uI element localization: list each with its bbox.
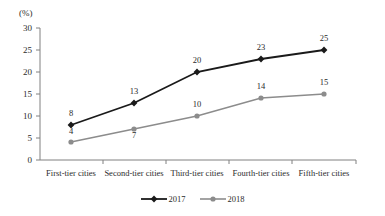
data-label-2018-3: 14 [249, 82, 273, 91]
data-label-2017-4: 25 [312, 34, 336, 43]
data-label-2017-2: 20 [185, 56, 209, 65]
data-label-2018-0: 4 [59, 127, 83, 136]
axis-lines [40, 28, 356, 160]
y-axis-ticks [36, 28, 40, 160]
legend-entry-2017[interactable]: 2017 [141, 194, 186, 204]
line-chart: (%) 30 25 20 15 10 5 0 [0, 0, 385, 216]
legend-label-2018: 2018 [228, 194, 245, 204]
x-axis-ticks [103, 160, 356, 164]
chart-legend: 2017 2018 [0, 194, 385, 204]
data-label-2017-3: 23 [249, 43, 273, 52]
legend-label-2017: 2017 [169, 194, 186, 204]
x-tick-label-fifth-tier-cities: Fifth-tier cities [282, 168, 366, 178]
data-label-2018-1: 7 [122, 131, 146, 140]
legend-marker-2018-icon [200, 194, 226, 204]
data-label-2017-1: 13 [122, 87, 146, 96]
data-label-2017-0: 8 [59, 109, 83, 118]
legend-marker-2017-icon [141, 194, 167, 204]
data-label-2018-2: 10 [185, 100, 209, 109]
legend-entry-2018[interactable]: 2018 [200, 194, 245, 204]
data-label-2018-4: 15 [312, 78, 336, 87]
